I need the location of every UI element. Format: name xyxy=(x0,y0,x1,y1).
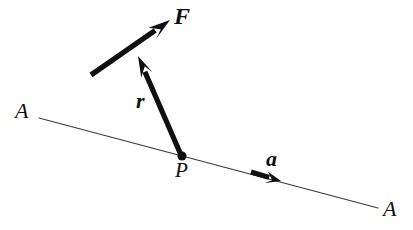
axis-line-A-A xyxy=(39,118,378,208)
vector-F-arrowhead xyxy=(149,20,170,39)
label-point-P: P xyxy=(175,160,188,181)
label-position-r: r xyxy=(136,90,145,112)
vector-a xyxy=(251,172,281,183)
vector-r-shaft xyxy=(145,72,181,155)
label-force-F: F xyxy=(174,4,190,28)
vector-F-shaft xyxy=(91,30,155,75)
vector-a-shaft xyxy=(251,172,269,177)
vector-F xyxy=(91,20,170,75)
label-axis-direction-a: a xyxy=(266,148,277,170)
label-axis-left-A: A xyxy=(15,100,28,122)
diagram-canvas xyxy=(0,0,413,230)
vector-diagram-figure: F r a P A A xyxy=(0,0,413,230)
label-axis-right-A: A xyxy=(383,198,396,220)
